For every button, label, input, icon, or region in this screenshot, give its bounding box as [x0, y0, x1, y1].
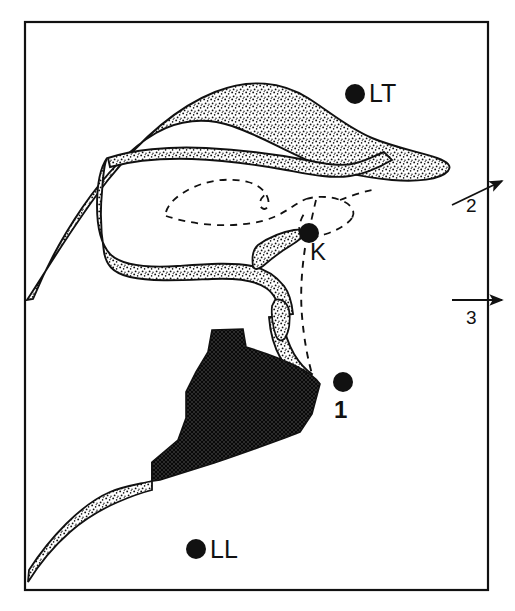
marker-label-k: K — [310, 240, 326, 264]
epiglottis-wedge — [253, 230, 304, 269]
marker-label-1: 1 — [334, 398, 347, 422]
anatomical-diagram — [0, 0, 515, 611]
arrow-label-2: 2 — [466, 196, 477, 215]
marker-dot-ll — [186, 539, 206, 559]
marker-dot-1 — [333, 372, 353, 392]
arrow-label-3: 3 — [466, 308, 477, 327]
k-trace-line — [301, 248, 312, 374]
reference-arrow-2 — [452, 181, 502, 205]
mandible-band — [97, 158, 293, 316]
marker-dot-lt — [345, 84, 365, 104]
figure-canvas: LT K 1 LL 2 3 — [0, 0, 515, 611]
marker-label-lt: LT — [369, 81, 396, 106]
marker-label-ll: LL — [210, 537, 238, 562]
dashed-contours — [166, 180, 372, 237]
lower-jaw-band — [28, 462, 152, 582]
tongue-body — [152, 329, 320, 481]
